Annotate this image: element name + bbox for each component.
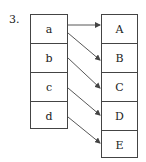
mapping-arrows <box>0 0 146 162</box>
arrow-d-to-E <box>68 117 100 143</box>
arrow-c-to-D <box>68 88 100 115</box>
arrow-b-to-C <box>68 58 100 88</box>
arrow-a-to-B <box>68 33 100 60</box>
